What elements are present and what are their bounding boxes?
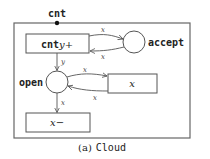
arc-label: x: [101, 53, 105, 61]
figure-caption: (a)Cloud: [78, 142, 126, 153]
transition-cnt-y-plus-label: cnty+: [41, 39, 73, 50]
transition-x-label: x: [129, 78, 135, 89]
arc-accept-to-cnty: [90, 47, 124, 51]
port-dot: [55, 21, 59, 25]
arc-open-to-x: [67, 74, 107, 77]
place-open: [46, 71, 68, 93]
arc-label: x: [83, 66, 87, 74]
port-label-cnt: cnt: [48, 8, 66, 19]
transition-x-minus-label: x−: [50, 117, 64, 128]
cloud-diagram: cnt cnty+ accept x x y open x x x x x− (…: [0, 0, 210, 159]
arc-label: y: [60, 58, 66, 66]
arc-x-to-open: [68, 86, 108, 91]
arc-cnty-to-accept: [89, 35, 123, 39]
place-open-label: open: [19, 77, 43, 88]
arc-label: x: [93, 94, 97, 102]
arc-label: x: [101, 26, 105, 34]
place-accept: [123, 31, 145, 53]
arc-label: x: [61, 99, 65, 107]
place-accept-label: accept: [148, 37, 184, 48]
